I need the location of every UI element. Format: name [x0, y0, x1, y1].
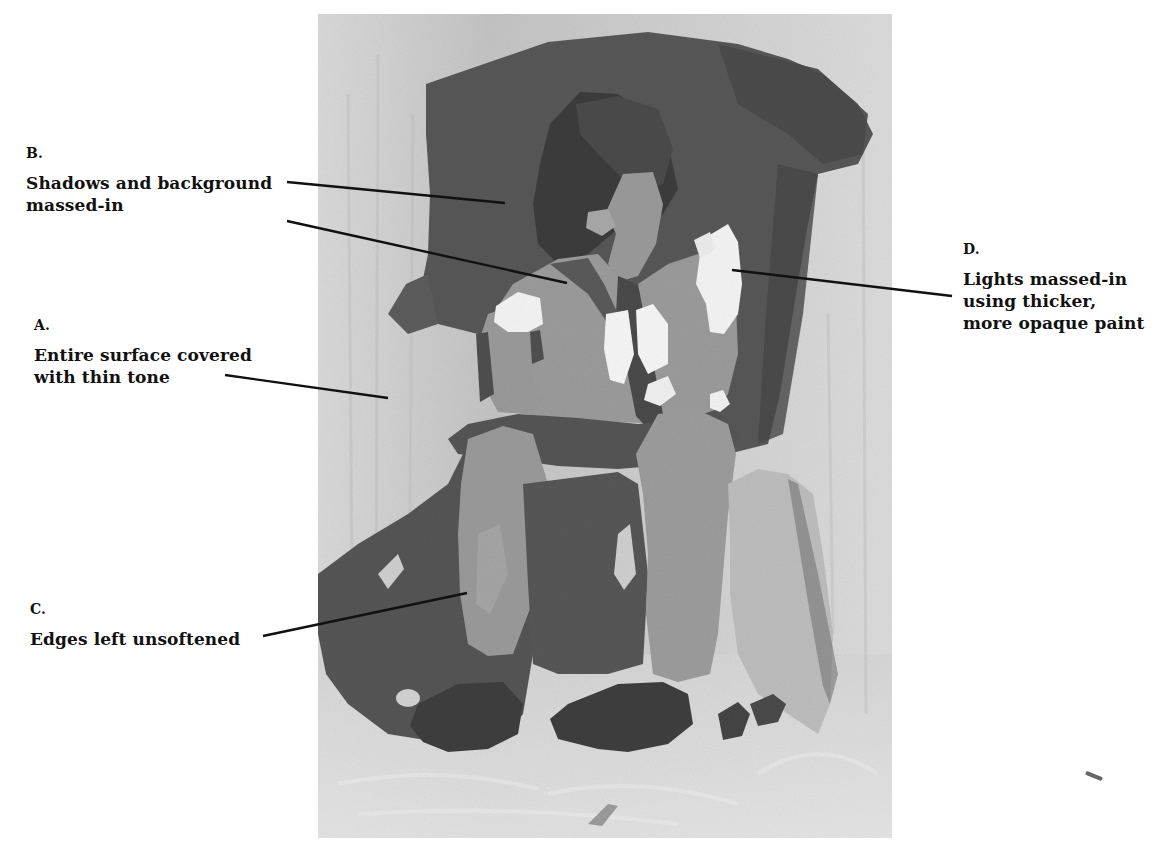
annotation-letter: B.: [26, 142, 272, 164]
annotation-text: Shadows and background massed-in: [26, 172, 272, 216]
painting-image: [318, 14, 892, 838]
annotation-text: Entire surface covered with thin tone: [34, 344, 252, 388]
annotation-letter: A.: [34, 314, 252, 336]
annotation-text: Edges left unsoftened: [30, 628, 240, 650]
annotation-text: Lights massed-in using thicker, more opa…: [963, 268, 1145, 334]
annotation-letter: C.: [30, 598, 240, 620]
stray-mark: [1085, 771, 1103, 781]
painting-layers: [318, 14, 892, 838]
annotation-b: B. Shadows and background massed-in: [26, 142, 272, 216]
annotation-a: A. Entire surface covered with thin tone: [34, 314, 252, 388]
annotation-d: D. Lights massed-in using thicker, more …: [963, 238, 1145, 334]
annotation-c: C. Edges left unsoftened: [30, 598, 240, 650]
annotation-letter: D.: [963, 238, 1145, 260]
